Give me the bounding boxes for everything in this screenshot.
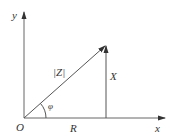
y-axis-label: y — [11, 9, 17, 21]
x-axis-label: x — [154, 122, 160, 134]
resistance-label: R — [69, 122, 77, 134]
origin-label: O — [16, 121, 24, 133]
impedance-diagram: y x O R |Z| X φ — [0, 0, 175, 140]
angle-label: φ — [48, 101, 53, 111]
angle-arc — [41, 104, 47, 119]
z-vector — [24, 46, 105, 118]
magnitude-label: |Z| — [53, 66, 65, 78]
reactance-label: X — [109, 70, 118, 82]
